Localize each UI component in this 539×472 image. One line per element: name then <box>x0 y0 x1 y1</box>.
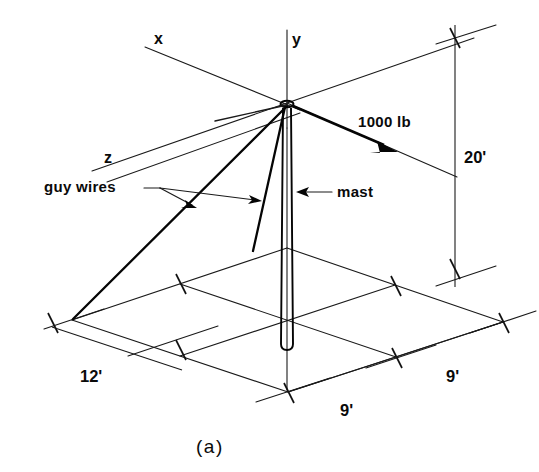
guy-wire-back-stub <box>215 105 287 121</box>
tick-left-corner <box>48 313 58 333</box>
tick-left-back-mid <box>176 274 186 294</box>
dimension-label-9ft-inner: 9' <box>340 401 353 419</box>
guy-wires-leader-branch-2 <box>160 188 255 200</box>
dimension-label-12ft: 12' <box>80 367 102 385</box>
axis-label-x: x <box>154 30 163 47</box>
force-arrow-head <box>370 141 398 153</box>
figure-caption: (a) <box>196 436 224 457</box>
dimension-label-9ft-outer: 9' <box>446 367 459 385</box>
x-axis-line <box>145 47 300 110</box>
figure-container: x y z <box>0 0 539 472</box>
guy-wire-left <box>73 106 287 319</box>
mast-label: mast <box>337 183 373 200</box>
dimension-line-12ft <box>52 327 182 370</box>
span-dimension-12ft: 12' <box>52 327 182 385</box>
axis-label-z: z <box>104 149 112 166</box>
mast-guy-wire-diagram: x y z <box>0 0 539 472</box>
coordinate-axes <box>107 30 300 390</box>
span-dimensions-9ft: 9' 9' <box>288 322 503 419</box>
mast-annotation: mast <box>296 183 373 200</box>
guy-wires-arrowhead-1 <box>181 200 197 208</box>
mast-structure <box>281 101 294 350</box>
guy-wires-label: guy wires <box>44 178 116 195</box>
guy-wires <box>73 105 287 319</box>
force-vector-1000lb: 1000 lb <box>293 106 411 153</box>
dimension-line-9ft-inner <box>288 357 396 392</box>
upper-edge-apex-to-right <box>287 38 474 103</box>
upper-edge-apex-to-left <box>92 103 287 171</box>
force-label: 1000 lb <box>358 113 411 130</box>
extension-bottom-right <box>436 266 496 286</box>
dimension-line-9ft-outer <box>396 322 503 357</box>
height-dimension-20ft: 20' <box>436 25 496 287</box>
tick-front-left-mid <box>176 340 186 360</box>
ground-tick-marks <box>44 274 536 403</box>
guy-wires-annotation: guy wires <box>44 178 262 208</box>
stub-front-left-mid <box>128 326 218 356</box>
axis-label-y: y <box>292 31 301 48</box>
dimension-label-height: 20' <box>464 148 486 166</box>
